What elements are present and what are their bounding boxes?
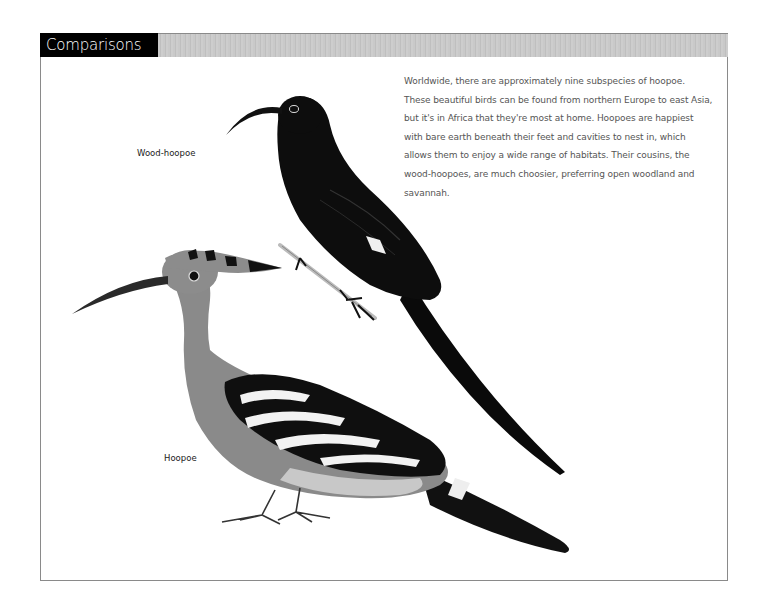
hoopoe-label: Hoopoe [164,453,197,463]
wood-hoopoe-label: Wood-hoopoe [137,148,195,158]
article-paragraph: Worldwide, there are approximately nine … [404,72,714,202]
